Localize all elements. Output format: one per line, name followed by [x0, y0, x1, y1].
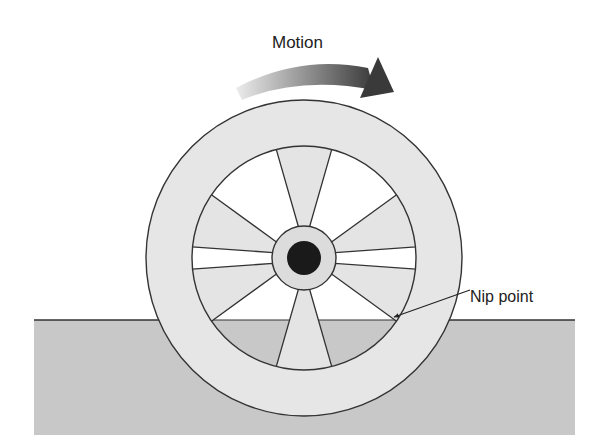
- nip-point-label: Nip point: [470, 288, 534, 305]
- motion-arrow: [236, 57, 394, 100]
- motion-label: Motion: [272, 33, 323, 52]
- wheel-axle: [287, 241, 321, 275]
- nip-point-diagram: Motion Nip point: [0, 0, 607, 448]
- motion-arrow-body: [236, 64, 374, 100]
- wheel: [146, 100, 462, 416]
